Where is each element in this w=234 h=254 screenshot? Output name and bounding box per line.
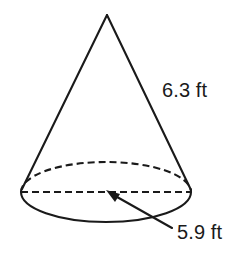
cone-diagram-svg bbox=[0, 0, 234, 254]
cone-figure: 6.3 ft 5.9 ft bbox=[0, 0, 234, 254]
slant-height-label: 6.3 ft bbox=[162, 80, 207, 100]
base-diameter-label: 5.9 ft bbox=[177, 222, 222, 242]
